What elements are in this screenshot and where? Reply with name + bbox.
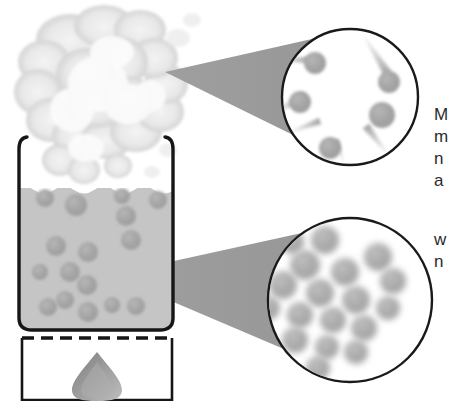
particle xyxy=(32,264,48,280)
particle xyxy=(77,275,97,295)
particle xyxy=(289,91,311,113)
particle xyxy=(342,286,370,314)
particle xyxy=(290,250,320,280)
heat-source xyxy=(22,338,172,401)
particle xyxy=(46,236,66,256)
particle xyxy=(287,302,313,328)
particle xyxy=(78,242,98,262)
particle xyxy=(39,298,57,316)
particle xyxy=(127,297,145,315)
particle xyxy=(311,226,339,254)
particle xyxy=(114,188,130,204)
particle xyxy=(282,327,308,353)
illustration-canvas: M m n a w n xyxy=(0,0,457,401)
particle xyxy=(121,230,141,250)
particle xyxy=(306,279,334,307)
particle xyxy=(378,71,400,93)
particle xyxy=(331,258,359,286)
particle xyxy=(60,262,80,282)
particle xyxy=(65,194,87,216)
particle xyxy=(78,302,98,322)
annotation-text-lower: w n xyxy=(434,229,446,273)
particle xyxy=(364,243,392,271)
particle xyxy=(369,102,395,128)
particle xyxy=(116,206,136,226)
particle xyxy=(269,271,297,299)
particle xyxy=(304,52,326,74)
particle xyxy=(315,335,339,359)
particle xyxy=(376,296,400,320)
particle xyxy=(344,340,368,364)
particle xyxy=(36,189,54,207)
particle xyxy=(56,291,74,309)
particle xyxy=(380,268,406,294)
particle xyxy=(149,191,167,209)
particle xyxy=(351,315,377,341)
figure-svg xyxy=(0,0,457,401)
particle xyxy=(320,307,346,333)
particle xyxy=(319,137,341,159)
annotation-text-upper: M m n a xyxy=(434,104,448,192)
particle xyxy=(104,297,120,313)
